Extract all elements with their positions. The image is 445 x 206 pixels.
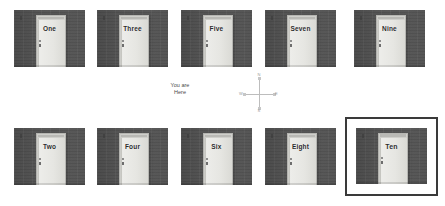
door-cell-ten-selected[interactable]: Ten [345, 117, 438, 196]
wall-mark-icon [360, 16, 362, 20]
wall-mark-icon [271, 134, 273, 138]
door-label: Six [181, 143, 252, 150]
door-photo: Four [97, 128, 168, 185]
door-lock-icon [290, 162, 292, 165]
floor-line [356, 182, 427, 184]
door-lock-icon [122, 162, 124, 165]
door-photo: One [14, 10, 85, 67]
door-cell-five[interactable]: Five [181, 10, 252, 67]
compass-rose: N S W E [243, 76, 277, 112]
door-photo: Two [14, 128, 85, 185]
compass-tick-west [243, 93, 246, 96]
door-lock-icon [379, 44, 381, 47]
door-knob-icon [122, 158, 124, 160]
door-lock-icon [206, 162, 208, 165]
door-cell-one[interactable]: One [14, 10, 85, 67]
door-knob-icon [290, 158, 292, 160]
door-knob-icon [39, 40, 41, 42]
door-label: Three [97, 25, 168, 32]
compass-label-east: E [275, 92, 278, 96]
door-knob-icon [206, 158, 208, 160]
you-are-here-marker: You are Here [157, 82, 203, 96]
door-knob-icon [122, 40, 124, 42]
floor-line [97, 65, 168, 67]
wall-mark-icon [187, 134, 189, 138]
door-cell-four[interactable]: Four [97, 128, 168, 185]
you-are-here-line-2: Here [157, 89, 203, 96]
wall-mark-icon [103, 16, 105, 20]
compass-axis-horizontal [246, 94, 274, 95]
door-photo: Five [181, 10, 252, 67]
floor-line [265, 65, 336, 67]
door-lock-icon [122, 44, 124, 47]
door-label: One [14, 25, 85, 32]
door-cell-six[interactable]: Six [181, 128, 252, 185]
you-are-here-line-1: You are [157, 82, 203, 89]
door-cell-nine[interactable]: Nine [354, 10, 425, 67]
door-label: Four [97, 143, 168, 150]
door-label: Seven [265, 25, 336, 32]
door-cell-three[interactable]: Three [97, 10, 168, 67]
compass-label-west: W [239, 92, 243, 96]
floor-line [181, 65, 252, 67]
door-map-canvas: One Three Five [0, 0, 445, 206]
door-cell-seven[interactable]: Seven [265, 10, 336, 67]
floor-line [354, 65, 425, 67]
door-label: Two [14, 143, 85, 150]
door-label: Nine [354, 25, 425, 32]
wall-mark-icon [20, 16, 22, 20]
wall-mark-icon [271, 16, 273, 20]
door-label: Ten [356, 143, 427, 150]
door-photo: Nine [354, 10, 425, 67]
wall-mark-icon [20, 134, 22, 138]
door-lock-icon [39, 162, 41, 165]
door-knob-icon [206, 40, 208, 42]
floor-line [14, 183, 85, 185]
door-lock-icon [206, 44, 208, 47]
door-photo: Eight [265, 128, 336, 185]
door-photo: Six [181, 128, 252, 185]
compass-label-south: S [258, 109, 261, 113]
door-photo: Ten [356, 128, 427, 184]
floor-line [265, 183, 336, 185]
wall-mark-icon [103, 134, 105, 138]
floor-line [97, 183, 168, 185]
door-photo: Seven [265, 10, 336, 67]
door-cell-eight[interactable]: Eight [265, 128, 336, 185]
door-label: Five [181, 25, 252, 32]
wall-mark-icon [187, 16, 189, 20]
door-lock-icon [39, 44, 41, 47]
floor-line [181, 183, 252, 185]
door-knob-icon [379, 40, 381, 42]
door-lock-icon [381, 161, 383, 164]
compass-label-north: N [258, 73, 261, 77]
wall-mark-icon [362, 134, 364, 138]
door-lock-icon [290, 44, 292, 47]
door-label: Eight [265, 143, 336, 150]
floor-line [14, 65, 85, 67]
door-knob-icon [39, 158, 41, 160]
door-cell-two[interactable]: Two [14, 128, 85, 185]
door-knob-icon [290, 40, 292, 42]
door-photo: Three [97, 10, 168, 67]
compass-tick-north [258, 77, 261, 80]
